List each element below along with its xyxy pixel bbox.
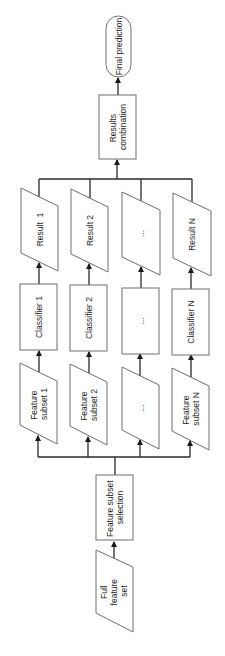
result-1-node: Result 1 — [21, 188, 58, 271]
ensemble-flowchart: Full feature set Feature subset selectio… — [0, 0, 225, 656]
result-3-label: ... — [136, 230, 146, 237]
feature-subset-3-label: ... — [136, 404, 146, 411]
classifier-1-node: Classifier 1 — [20, 284, 57, 350]
feature-subset-selection-node: Feature subset selection — [96, 475, 133, 540]
classifier-n-label: Classifier N — [186, 300, 196, 343]
feature-subset-1-label: Feature subset 1 — [29, 388, 49, 420]
feature-subset-1-node: Feature subset 1 — [20, 363, 57, 444]
result-2-label: Result 2 — [85, 215, 95, 246]
classifier-3-node: ... — [122, 288, 159, 354]
classifier-3-label: ... — [136, 317, 146, 324]
result-n-label: Result N — [187, 218, 197, 251]
result-2-node: Result 2 — [71, 189, 108, 272]
final-prediction-label: Final prediction — [114, 17, 124, 75]
classifier-n-node: Classifier N — [172, 289, 209, 355]
feature-subset-n-node: Feature subset N — [172, 368, 209, 450]
result-3-node: ... — [122, 192, 160, 275]
classifier-2-label: Classifier 2 — [84, 297, 94, 339]
classifier-1-label: Classifier 1 — [34, 296, 44, 338]
feature-subset-2-label: Feature subset 2 — [79, 389, 99, 421]
classifier-2-node: Classifier 2 — [70, 285, 107, 351]
final-prediction-node: Final prediction — [106, 16, 131, 77]
result-1-label: Result 1 — [35, 212, 45, 246]
feature-subset-n-label: Feature subset N — [181, 392, 201, 426]
result-n-node: Result N — [173, 193, 211, 276]
feature-subset-2-node: Feature subset 2 — [70, 364, 107, 445]
feature-subset-3-node: ... — [122, 367, 159, 449]
full-feature-set-node: Full feature set — [96, 550, 133, 632]
results-combination-node: Results combination — [99, 95, 136, 159]
